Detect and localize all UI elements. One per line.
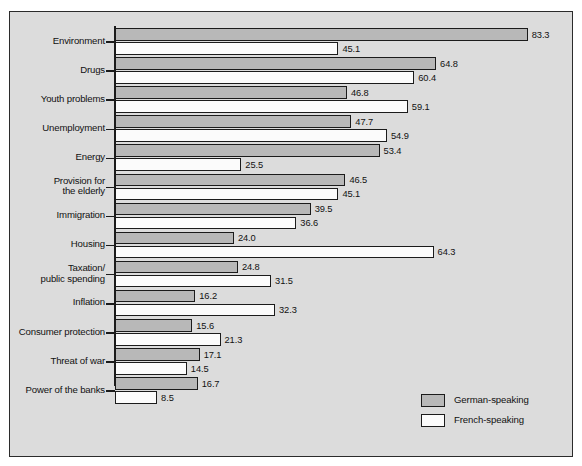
bar-value-label: 25.5 (245, 160, 263, 170)
bar-value-label: 36.6 (300, 218, 318, 228)
bar-german-speaking (115, 144, 380, 157)
bar-value-label: 24.0 (238, 233, 256, 243)
bar-value-label: 21.3 (225, 335, 243, 345)
bar-value-label: 14.5 (191, 364, 209, 374)
axis-tick (106, 216, 115, 217)
bar-value-label: 16.2 (199, 291, 217, 301)
bar-value-label: 8.5 (161, 393, 174, 403)
bar-french-speaking (115, 129, 387, 142)
bar-german-speaking (115, 348, 200, 361)
category-label: Immigration (57, 210, 105, 221)
bar-value-label: 54.9 (391, 131, 409, 141)
axis-tick (106, 99, 115, 100)
category-label: Taxation/ public spending (41, 263, 105, 284)
bar-german-speaking (115, 28, 528, 41)
bar-value-label: 46.5 (349, 175, 367, 185)
axis-tick (106, 245, 115, 246)
bar-value-label: 64.3 (438, 247, 456, 257)
bar-value-label: 60.4 (418, 73, 436, 83)
bar-french-speaking (115, 333, 221, 346)
legend-swatch-german (421, 394, 445, 407)
bar-german-speaking (115, 377, 198, 390)
bar-german-speaking (115, 86, 347, 99)
category-label: Unemployment (42, 123, 105, 134)
bar-value-label: 32.3 (279, 305, 297, 315)
category-label: Environment (53, 36, 105, 47)
bar-value-label: 15.6 (196, 321, 214, 331)
axis-tick (106, 332, 115, 333)
bar-value-label: 59.1 (412, 102, 430, 112)
legend-item[interactable]: French-speaking (421, 413, 561, 430)
bar-value-label: 16.7 (202, 379, 220, 389)
bar-german-speaking (115, 174, 345, 187)
axis-tick (106, 390, 115, 391)
bar-german-speaking (115, 203, 311, 216)
bar-french-speaking (115, 275, 271, 288)
bar-french-speaking (115, 158, 241, 171)
axis-tick (106, 129, 115, 130)
bar-french-speaking (115, 304, 275, 317)
bar-value-label: 46.8 (351, 88, 369, 98)
bar-value-label: 17.1 (204, 350, 222, 360)
chart-panel: Environment83.345.1Drugs64.860.4Youth pr… (9, 11, 573, 457)
category-label: Inflation (73, 297, 105, 308)
bar-value-label: 45.1 (342, 189, 360, 199)
bar-french-speaking (115, 71, 414, 84)
axis-tick (106, 70, 115, 71)
bar-german-speaking (115, 290, 195, 303)
bar-french-speaking (115, 246, 434, 259)
chart-legend: German-speakingFrench-speaking (421, 393, 561, 433)
bar-value-label: 39.5 (315, 204, 333, 214)
legend-item[interactable]: German-speaking (421, 393, 561, 410)
category-label: Drugs (80, 65, 105, 76)
category-label: Power of the banks (26, 385, 105, 396)
axis-tick (106, 274, 115, 275)
chart-page: Environment83.345.1Drugs64.860.4Youth pr… (0, 0, 582, 466)
plot-area: Environment83.345.1Drugs64.860.4Youth pr… (10, 12, 574, 458)
bar-value-label: 31.5 (275, 276, 293, 286)
axis-tick (106, 158, 115, 159)
axis-tick (106, 303, 115, 304)
bar-french-speaking (115, 217, 296, 230)
bar-german-speaking (115, 261, 238, 274)
category-label: Housing (71, 239, 105, 250)
bar-value-label: 24.8 (242, 262, 260, 272)
bar-value-label: 83.3 (532, 30, 550, 40)
category-label: Consumer protection (19, 327, 105, 338)
category-label: Energy (76, 152, 106, 163)
legend-swatch-french (421, 414, 445, 427)
bar-german-speaking (115, 319, 192, 332)
category-label: Threat of war (50, 356, 105, 367)
bar-german-speaking (115, 57, 436, 70)
bar-french-speaking (115, 42, 338, 55)
bar-value-label: 47.7 (355, 117, 373, 127)
axis-tick (106, 187, 115, 188)
bar-german-speaking (115, 115, 351, 128)
bar-french-speaking (115, 100, 408, 113)
bar-french-speaking (115, 391, 157, 404)
bar-value-label: 45.1 (342, 44, 360, 54)
axis-tick (106, 361, 115, 362)
legend-label: German-speaking (454, 394, 529, 405)
bar-german-speaking (115, 232, 234, 245)
category-label: Youth problems (41, 94, 105, 105)
bar-value-label: 64.8 (440, 59, 458, 69)
bar-value-label: 53.4 (384, 146, 402, 156)
bar-french-speaking (115, 188, 338, 201)
axis-tick (106, 41, 115, 42)
legend-label: French-speaking (454, 414, 524, 425)
bar-french-speaking (115, 362, 187, 375)
category-label: Provision for the elderly (54, 176, 105, 197)
